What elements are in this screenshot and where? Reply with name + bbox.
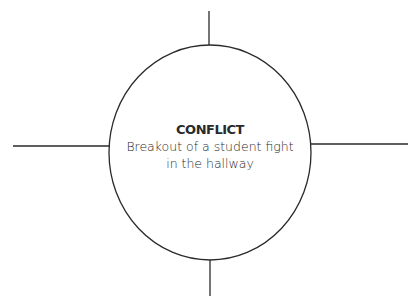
conflict-description-line2: in the hallway bbox=[109, 155, 311, 172]
conflict-title: CONFLICT bbox=[109, 122, 311, 138]
center-label: CONFLICT Breakout of a student fight in … bbox=[109, 122, 311, 172]
conflict-description-line1: Breakout of a student fight bbox=[109, 138, 311, 155]
